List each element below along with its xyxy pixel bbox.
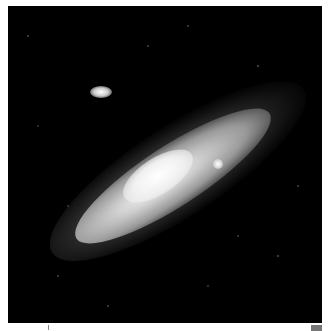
corner-mark bbox=[311, 325, 322, 331]
galaxy-photo bbox=[8, 6, 322, 323]
edge-mark bbox=[48, 325, 49, 330]
companion-galaxy-elliptical bbox=[90, 86, 112, 98]
companion-galaxy-small bbox=[213, 159, 223, 169]
